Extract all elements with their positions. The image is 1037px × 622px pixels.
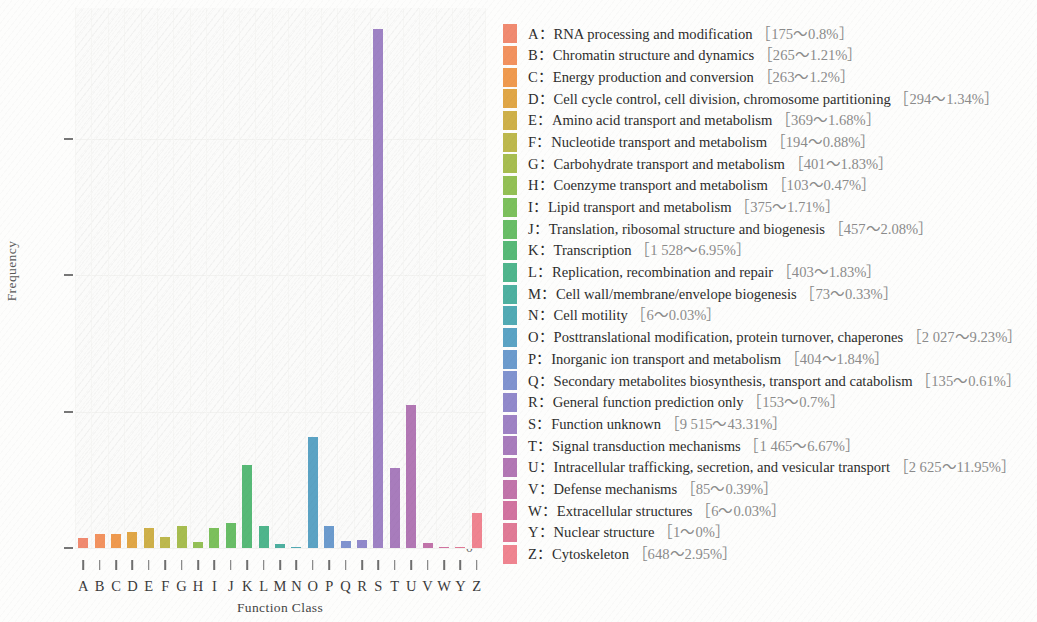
legend-item-P[interactable]: P：Inorganic ion transport and metabolism… (503, 348, 1033, 370)
legend-stat-N: ［6～0.03%］ (631, 307, 721, 323)
legend-swatch-E (503, 111, 517, 130)
x-tick-label-A: A (78, 578, 88, 595)
vertical-gridline (173, 8, 174, 548)
legend-stat-T: ［1 465～6.67%］ (744, 438, 860, 454)
x-tick-mark (230, 560, 232, 570)
legend-item-N[interactable]: N：Cell motility ［6～0.03%］ (503, 305, 1033, 327)
bar-S (373, 29, 383, 548)
vertical-gridline (321, 8, 322, 548)
legend-swatch-Q (503, 371, 517, 390)
legend-code-M: M (528, 286, 541, 302)
x-tick-label-F: F (161, 578, 169, 595)
gridline (75, 275, 485, 276)
legend-description-Q: Secondary metabolites biosynthesis, tran… (554, 373, 913, 389)
legend-swatch-U (503, 458, 517, 477)
x-tick-mark (296, 560, 298, 570)
legend-item-Z[interactable]: Z：Cytoskeleton ［648～2.95%］ (503, 544, 1033, 566)
x-tick-mark (460, 560, 462, 570)
legend-item-T[interactable]: T：Signal transduction mechanisms ［1 465～… (503, 435, 1033, 457)
legend-item-U[interactable]: U：Intracellular trafficking, secretion, … (503, 457, 1033, 479)
legend-swatch-I (503, 198, 517, 217)
vertical-gridline (108, 8, 109, 548)
legend-label-Z: Z：Cytoskeleton ［648～2.95%］ (528, 547, 737, 562)
legend-item-J[interactable]: J：Translation, ribosomal structure and b… (503, 218, 1033, 240)
legend-description-N: Cell motility (554, 307, 628, 323)
legend-description-P: Inorganic ion transport and metabolism (551, 351, 781, 367)
legend-label-E: E：Amino acid transport and metabolism ［3… (528, 113, 881, 128)
legend-swatch-J (503, 220, 517, 239)
x-tick-mark (394, 560, 396, 570)
vertical-gridline (255, 8, 256, 548)
x-tick-label-J: J (228, 578, 234, 595)
bar-M (275, 544, 285, 548)
legend-item-E[interactable]: E：Amino acid transport and metabolism ［3… (503, 110, 1033, 132)
legend-label-P: P：Inorganic ion transport and metabolism… (528, 352, 889, 367)
legend-label-R: R：General function prediction only ［153～… (528, 395, 845, 410)
legend-stat-P: ［404～1.84%］ (785, 351, 890, 367)
vertical-gridline (419, 8, 420, 548)
legend-label-H: H：Coenzyme transport and metabolism ［103… (528, 178, 876, 193)
legend-stat-Z: ［648～2.95%］ (633, 546, 738, 562)
vertical-gridline (190, 8, 191, 548)
x-tick-mark (99, 560, 101, 570)
legend-description-I: Lipid transport and metabolism (548, 199, 732, 215)
bar-V (423, 543, 433, 548)
legend-description-G: Carbohydrate transport and metabolism (554, 156, 785, 172)
legend-item-L[interactable]: L：Replication, recombination and repair … (503, 262, 1033, 284)
bar-N (291, 547, 301, 548)
bar-W (439, 547, 449, 548)
legend-label-W: W：Extracellular structures ［6～0.03%］ (528, 504, 786, 519)
legend-item-D[interactable]: D：Cell cycle control, cell division, chr… (503, 88, 1033, 110)
bar-K (242, 465, 252, 548)
legend-item-G[interactable]: G：Carbohydrate transport and metabolism … (503, 153, 1033, 175)
legend-item-A[interactable]: A：RNA processing and modification ［175～0… (503, 23, 1033, 45)
legend-code-Z: Z (528, 546, 537, 562)
legend: A：RNA processing and modification ［175～0… (503, 23, 1033, 565)
x-tick-label-R: R (357, 578, 367, 595)
legend-item-I[interactable]: I：Lipid transport and metabolism ［375～1.… (503, 197, 1033, 219)
legend-code-J: J (528, 221, 534, 237)
vertical-gridline (75, 8, 76, 548)
legend-item-V[interactable]: V：Defense mechanisms ［85～0.39%］ (503, 478, 1033, 500)
legend-item-H[interactable]: H：Coenzyme transport and metabolism ［103… (503, 175, 1033, 197)
x-tick-mark (361, 560, 363, 570)
legend-label-I: I：Lipid transport and metabolism ［375～1.… (528, 200, 840, 215)
x-tick-mark (197, 560, 199, 570)
legend-item-W[interactable]: W：Extracellular structures ［6～0.03%］ (503, 500, 1033, 522)
legend-label-D: D：Cell cycle control, cell division, chr… (528, 92, 999, 107)
legend-label-O: O：Posttranslational modification, protei… (528, 330, 1022, 345)
vertical-gridline (141, 8, 142, 548)
legend-item-Q[interactable]: Q：Secondary metabolites biosynthesis, tr… (503, 370, 1033, 392)
legend-item-O[interactable]: O：Posttranslational modification, protei… (503, 327, 1033, 349)
legend-item-F[interactable]: F：Nucleotide transport and metabolism ［1… (503, 131, 1033, 153)
legend-code-Q: Q (528, 373, 539, 389)
vertical-gridline (469, 8, 470, 548)
bar-J (226, 523, 236, 548)
y-tick-mark (64, 411, 73, 413)
legend-code-F: F (528, 134, 536, 150)
legend-stat-E: ［369～1.68%］ (776, 112, 881, 128)
bar-H (193, 542, 203, 548)
y-tick-mark (64, 547, 73, 549)
legend-item-S[interactable]: S：Function unknown ［9 515～43.31%］ (503, 413, 1033, 435)
legend-item-C[interactable]: C：Energy production and conversion ［263～… (503, 66, 1033, 88)
bar-P (324, 526, 334, 548)
bar-F (160, 537, 170, 548)
x-tick-mark (378, 560, 380, 570)
legend-item-M[interactable]: M：Cell wall/membrane/envelope biogenesis… (503, 283, 1033, 305)
x-tick-label-O: O (308, 578, 318, 595)
x-tick-mark (148, 560, 150, 570)
legend-description-O: Posttranslational modification, protein … (554, 329, 904, 345)
legend-label-K: K：Transcription ［1 528～6.95%］ (528, 243, 751, 258)
x-tick-mark (328, 560, 330, 570)
legend-label-G: G：Carbohydrate transport and metabolism … (528, 157, 893, 172)
x-axis-label: Function Class (237, 600, 323, 616)
vertical-gridline (223, 8, 224, 548)
legend-item-R[interactable]: R：General function prediction only ［153～… (503, 392, 1033, 414)
legend-label-S: S：Function unknown ［9 515～43.31%］ (528, 417, 787, 432)
legend-item-B[interactable]: B：Chromatin structure and dynamics ［265～… (503, 45, 1033, 67)
legend-item-K[interactable]: K：Transcription ［1 528～6.95%］ (503, 240, 1033, 262)
legend-description-T: Signal transduction mechanisms (552, 438, 741, 454)
legend-code-E: E (528, 112, 537, 128)
legend-item-Y[interactable]: Y：Nuclear structure ［1～0%］ (503, 522, 1033, 544)
